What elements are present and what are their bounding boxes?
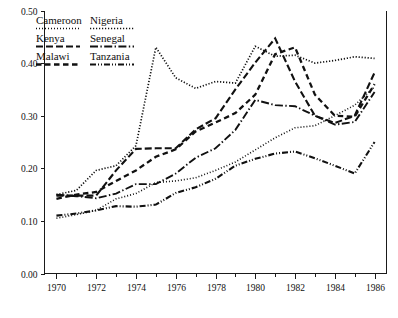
- x-tick-label: 1970: [47, 283, 66, 293]
- legend-label-tanzania: Tanzania: [90, 50, 130, 62]
- chart-canvas: 0.000.100.200.300.400.50 197019721974197…: [0, 0, 398, 318]
- y-tick-label: 0.00: [21, 270, 38, 280]
- x-tick-label: 1984: [326, 283, 345, 293]
- legend-label-cameroon: Cameroon: [36, 14, 82, 26]
- x-tick-label: 1986: [366, 283, 385, 293]
- x-tick-label: 1978: [207, 283, 226, 293]
- legend-label-nigeria: Nigeria: [90, 14, 123, 26]
- x-axis-tick-labels: 197019721974197619781980198219841986: [47, 283, 385, 293]
- legend-label-kenya: Kenya: [36, 32, 65, 44]
- y-tick-label: 0.30: [21, 112, 38, 122]
- chart-background: [0, 0, 398, 318]
- y-tick-label: 0.10: [21, 217, 38, 227]
- x-tick-label: 1980: [246, 283, 265, 293]
- x-tick-label: 1982: [286, 283, 305, 293]
- x-tick-label: 1972: [87, 283, 106, 293]
- legend-label-senegal: Senegal: [90, 32, 125, 44]
- x-tick-label: 1976: [167, 283, 186, 293]
- line-chart: 0.000.100.200.300.400.50 197019721974197…: [0, 0, 398, 318]
- x-tick-label: 1974: [127, 283, 146, 293]
- legend-label-malawi: Malawi: [36, 50, 70, 62]
- y-tick-label: 0.20: [21, 164, 38, 174]
